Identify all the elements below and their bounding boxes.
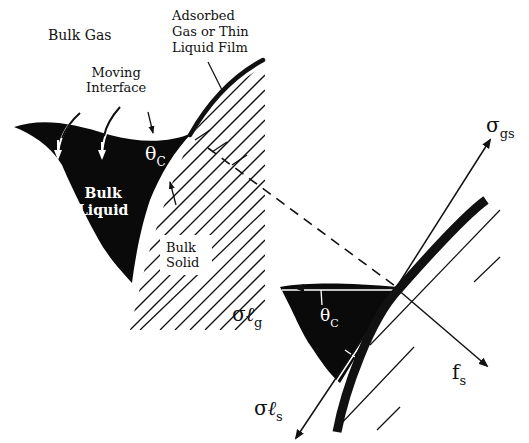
moving-interface-line-1: Moving bbox=[86, 65, 146, 80]
theta-symbol: θ bbox=[320, 305, 330, 325]
adsorbed-leader-line bbox=[208, 62, 222, 90]
bulk-gas-label: Bulk Gas bbox=[48, 28, 111, 43]
bulk-liquid-label: Bulk Liquid bbox=[78, 185, 128, 219]
sigma-symbol: σ bbox=[254, 396, 268, 420]
moving-interface-label: Moving Interface bbox=[86, 65, 146, 95]
bulk-solid-line-1: Bulk bbox=[166, 240, 199, 255]
bulk-liquid-line-1: Bulk bbox=[78, 185, 128, 202]
inset-liquid-wedge bbox=[280, 284, 398, 383]
projection-tick-3 bbox=[232, 155, 247, 165]
sigma-lg-label: σℓg bbox=[232, 302, 262, 326]
ell-symbol: ℓ bbox=[246, 302, 254, 326]
theta-subscript: C bbox=[330, 317, 338, 330]
bulk-liquid-line-2: Liquid bbox=[78, 202, 128, 219]
theta-symbol: θ bbox=[145, 142, 156, 164]
theta-pointer-arrow-top bbox=[148, 112, 153, 133]
fs-label: fs bbox=[452, 360, 466, 384]
fs-arrow bbox=[396, 288, 487, 366]
sigma-subscript: gs bbox=[500, 126, 515, 141]
adsorbed-line-1: Adsorbed bbox=[172, 8, 249, 24]
bulk-solid-line-2: Solid bbox=[166, 255, 199, 270]
theta-pointer-arrow-bottom bbox=[170, 182, 176, 205]
wetting-diagram: Bulk Gas Adsorbed Gas or Thin Liquid Fil… bbox=[0, 0, 529, 443]
f-subscript: s bbox=[459, 373, 466, 388]
theta-c-main-label: θC bbox=[145, 142, 166, 164]
bulk-solid-label: Bulk Solid bbox=[166, 240, 199, 270]
sigma-symbol: σ bbox=[486, 113, 500, 137]
sigma-subscript: s bbox=[276, 409, 283, 424]
adsorbed-line-2: Gas or Thin bbox=[172, 24, 249, 40]
projection-dashed-line bbox=[208, 148, 395, 286]
sigma-symbol: σ bbox=[232, 302, 246, 326]
sigma-ls-label: σℓs bbox=[254, 396, 283, 420]
projection-tick-1 bbox=[195, 130, 210, 140]
theta-c-inset-label: θC bbox=[320, 305, 339, 325]
adsorbed-film-label: Adsorbed Gas or Thin Liquid Film bbox=[172, 8, 249, 56]
sigma-gs-label: σgs bbox=[486, 113, 515, 137]
diagram-graphic bbox=[0, 0, 529, 443]
sigma-subscript: g bbox=[254, 315, 262, 330]
theta-subscript: C bbox=[156, 155, 165, 169]
ell-symbol: ℓ bbox=[268, 396, 276, 420]
moving-interface-line-2: Interface bbox=[86, 80, 146, 95]
adsorbed-line-3: Liquid Film bbox=[172, 40, 249, 56]
